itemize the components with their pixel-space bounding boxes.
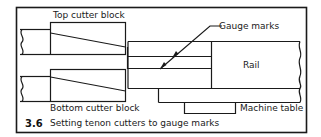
figure-caption: Setting tenon cutters to gauge marks xyxy=(50,118,219,129)
gauge-marks-leader xyxy=(160,26,222,69)
tenon-stock xyxy=(128,42,301,89)
label-top-cutter-block: Top cutter block xyxy=(53,10,125,20)
gauge-arrowheads xyxy=(160,51,179,69)
label-rail: Rail xyxy=(243,60,260,70)
label-bottom-cutter-block: Bottom cutter block xyxy=(50,103,140,113)
bottom-shaft xyxy=(20,77,50,102)
top-cutter-block xyxy=(51,23,126,55)
top-shaft xyxy=(20,30,50,55)
figure-number: 3.6 xyxy=(25,118,43,129)
label-gauge-marks: Gauge marks xyxy=(219,21,279,31)
bottom-cutter-block xyxy=(51,70,126,102)
label-machine-table: Machine table xyxy=(240,103,303,113)
